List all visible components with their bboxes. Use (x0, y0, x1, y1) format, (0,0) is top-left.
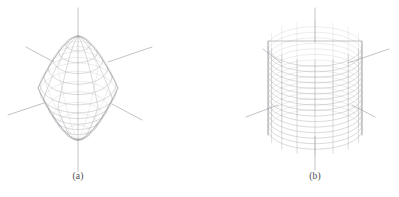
mesh-longitude-back (58, 36, 78, 140)
mesh-longitude-back (78, 36, 98, 140)
caption-b: (b) (295, 171, 335, 181)
mesh-longitude-front (78, 36, 113, 140)
mesh-longitude-front (78, 36, 118, 140)
axis-lower-left (8, 103, 44, 115)
axis-lower-right (352, 105, 375, 117)
mesh-longitude-back (43, 36, 78, 140)
axis-upper-right (108, 47, 152, 62)
mesh-longitude-front (43, 36, 78, 140)
caption-a: (a) (58, 171, 98, 181)
mesh-longitude-front (78, 36, 98, 140)
mesh-longitude-front (58, 36, 78, 140)
panel-b-sphere (246, 8, 389, 170)
axis-lower-right (112, 104, 142, 120)
axis-upper-right (348, 49, 389, 63)
mesh-longitude-back (78, 36, 113, 140)
figure-container: (a) (b) (0, 0, 399, 197)
wireframe-figure-svg (0, 0, 399, 197)
panel-a-bipyramid (8, 8, 152, 172)
axis-upper-left (26, 47, 52, 61)
mesh-longitude-front (38, 36, 78, 140)
